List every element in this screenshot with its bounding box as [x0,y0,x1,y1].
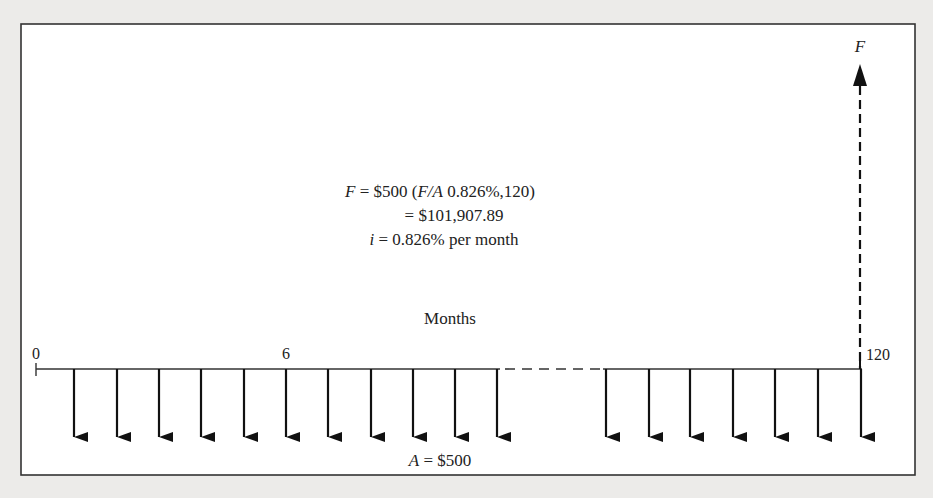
tick-label-0: 0 [32,345,40,362]
tick-label-6: 6 [282,345,290,362]
equation-line-2: = $101,907.89 [405,206,504,225]
payment-label: A = $500 [408,451,471,470]
tick-label-120: 120 [866,346,890,363]
diagram-frame [21,24,915,475]
equation-line-1: F = $500 (F/A 0.826%,120) [344,182,535,201]
axis-label-months: Months [424,309,476,328]
cash-flow-diagram: F F = $500 (F/A 0.826%,120) = $101,907.8… [0,0,933,498]
future-value-label: F [854,37,866,56]
interest-rate-line: i = 0.826% per month [370,230,519,249]
